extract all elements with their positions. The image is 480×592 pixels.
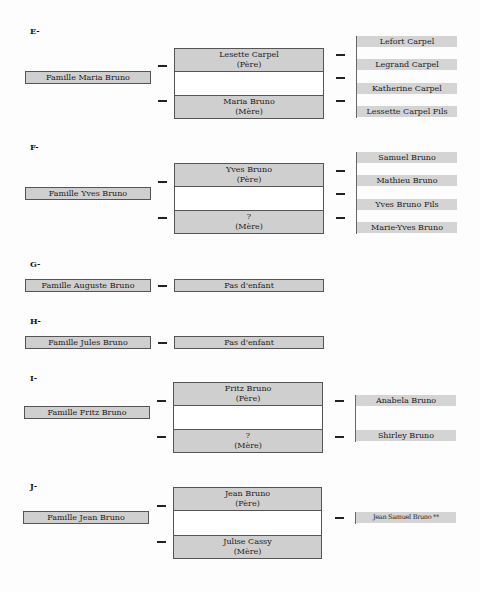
connector-dash <box>158 217 167 219</box>
connector-dash <box>335 517 344 519</box>
no-children-box: Pas d'enfant <box>174 279 324 292</box>
connector-dash <box>157 400 166 402</box>
mother-role: (Mère) <box>235 222 263 232</box>
child-box: Shirley Bruno <box>356 430 456 441</box>
section-label-i: I- <box>30 373 37 383</box>
father-box: Lesette Carpel (Père) <box>174 48 324 72</box>
connector-dash <box>157 541 166 543</box>
no-children-box: Pas d'enfant <box>174 336 324 349</box>
family-box: Famille Jean Bruno <box>23 511 149 524</box>
connector-dash <box>335 436 344 438</box>
father-name: Lesette Carpel <box>219 50 279 60</box>
mother-name: ? <box>246 431 250 441</box>
connector-dash <box>158 65 167 67</box>
section-label-h: H- <box>30 316 41 326</box>
child-box: Anabela Bruno <box>356 395 456 406</box>
section-label-f: F- <box>30 142 39 152</box>
child-box: Lessette Carpel Fils <box>357 106 457 117</box>
child-box: Jean Samuel Bruno ** <box>356 512 456 523</box>
section-label-e: E- <box>30 26 40 36</box>
child-box: Yves Bruno Fils <box>357 199 457 210</box>
mother-role: (Mère) <box>234 441 262 451</box>
connector-dash <box>157 436 166 438</box>
connector-dash <box>336 193 345 195</box>
father-name: Fritz Bruno <box>225 384 272 394</box>
section-label-g: G- <box>30 259 40 269</box>
family-box: Famille Yves Bruno <box>25 187 151 200</box>
child-box: Samuel Bruno <box>357 152 457 163</box>
mother-name: ? <box>247 212 251 222</box>
father-name: Yves Bruno <box>226 165 272 175</box>
connector-dash <box>336 54 345 56</box>
child-box: Legrand Carpel <box>357 59 457 70</box>
child-box: Marie-Yves Bruno <box>357 222 457 233</box>
mother-role: (Mère) <box>234 547 262 557</box>
connector-dash <box>336 100 345 102</box>
mother-box: Maria Bruno (Mère) <box>174 95 324 119</box>
connector-dash <box>336 217 345 219</box>
connector-dash <box>336 77 345 79</box>
mother-role: (Mère) <box>235 107 263 117</box>
mother-name: Julise Cassy <box>223 537 271 547</box>
child-box: Katherine Carpel <box>357 83 457 94</box>
child-box: Mathieu Bruno <box>357 175 457 186</box>
family-box: Famille Auguste Bruno <box>25 279 151 292</box>
connector-dash <box>336 170 345 172</box>
connector-dash <box>158 181 167 183</box>
father-role: (Père) <box>237 60 262 70</box>
connector-dash <box>158 285 167 287</box>
father-role: (Père) <box>235 499 260 509</box>
mother-name: Maria Bruno <box>223 97 274 107</box>
father-role: (Père) <box>237 175 262 185</box>
child-box: Lefort Carpel <box>357 36 457 47</box>
father-name: Jean Bruno <box>225 489 270 499</box>
family-box: Famille Fritz Bruno <box>24 406 150 419</box>
father-box: Yves Bruno (Père) <box>174 163 324 187</box>
father-box: Jean Bruno (Père) <box>173 487 322 511</box>
family-box: Famille Jules Bruno <box>25 336 151 349</box>
family-box: Famille Maria Bruno <box>25 71 151 84</box>
father-box: Fritz Bruno (Père) <box>173 382 323 406</box>
connector-dash <box>158 100 167 102</box>
section-label-j: J- <box>30 481 37 491</box>
mother-box: ? (Mère) <box>173 429 323 453</box>
mother-box: ? (Mère) <box>174 210 324 234</box>
connector-dash <box>158 342 167 344</box>
mother-box: Julise Cassy (Mère) <box>173 535 322 559</box>
connector-dash <box>157 505 166 507</box>
father-role: (Père) <box>236 394 261 404</box>
connector-dash <box>335 400 344 402</box>
